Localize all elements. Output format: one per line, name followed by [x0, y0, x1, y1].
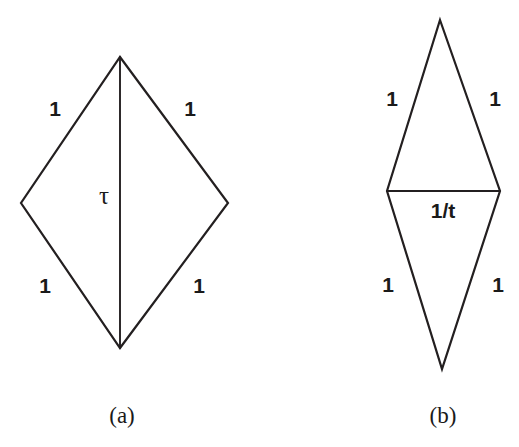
rhombus-b-diagonal-label: 1/t — [431, 199, 456, 222]
rhombus-a-edge-label-upper-left: 1 — [49, 97, 61, 120]
panel-a-caption: (a) — [109, 403, 135, 428]
rhombus-b-edge-label-lower-left: 1 — [382, 273, 394, 296]
rhombus-b-outline — [387, 20, 500, 369]
rhombus-a-edge-label-upper-right: 1 — [184, 97, 196, 120]
figure-container: τ 1 1 1 1 (a) 1/t 1 1 1 1 (b) — [0, 0, 519, 447]
figure-canvas: τ 1 1 1 1 (a) 1/t 1 1 1 1 (b) — [0, 0, 519, 447]
rhombus-b-edge-label-lower-right: 1 — [492, 273, 504, 296]
panel-b: 1/t 1 1 1 1 (b) — [382, 20, 504, 428]
rhombus-b-edge-label-upper-right: 1 — [489, 87, 501, 110]
panel-a: τ 1 1 1 1 (a) — [21, 57, 228, 428]
rhombus-b-edge-label-upper-left: 1 — [386, 87, 398, 110]
rhombus-a-edge-label-lower-left: 1 — [39, 274, 51, 297]
rhombus-a-edge-label-lower-right: 1 — [193, 274, 205, 297]
panel-b-caption: (b) — [430, 403, 457, 428]
rhombus-a-diagonal-label: τ — [99, 182, 109, 209]
